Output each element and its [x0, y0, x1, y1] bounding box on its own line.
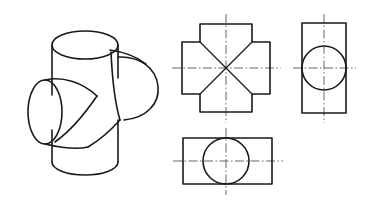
- vertical-cylinder-top-ellipse: [52, 31, 118, 59]
- front-view-diagonal-top-right: [226, 42, 252, 68]
- right-side-view: [293, 14, 356, 123]
- vertical-cylinder-bottom-arc: [52, 162, 118, 175]
- front-view-diagonal-bottom-right: [226, 68, 252, 94]
- technical-drawing-figure: [0, 0, 376, 207]
- front-view-cross-shape: [172, 14, 281, 123]
- drawing-sheet: [0, 0, 376, 207]
- saddle-intersection-line: [88, 120, 120, 147]
- front-view-diagonal-bottom-left: [200, 68, 226, 94]
- right-cylinder-outer-profile: [118, 57, 158, 120]
- isometric-pictorial-view: [28, 31, 158, 175]
- front-view-diagonal-top-left: [200, 42, 226, 68]
- top-view: [173, 128, 283, 195]
- front-cylinder-face-ellipse: [28, 80, 62, 144]
